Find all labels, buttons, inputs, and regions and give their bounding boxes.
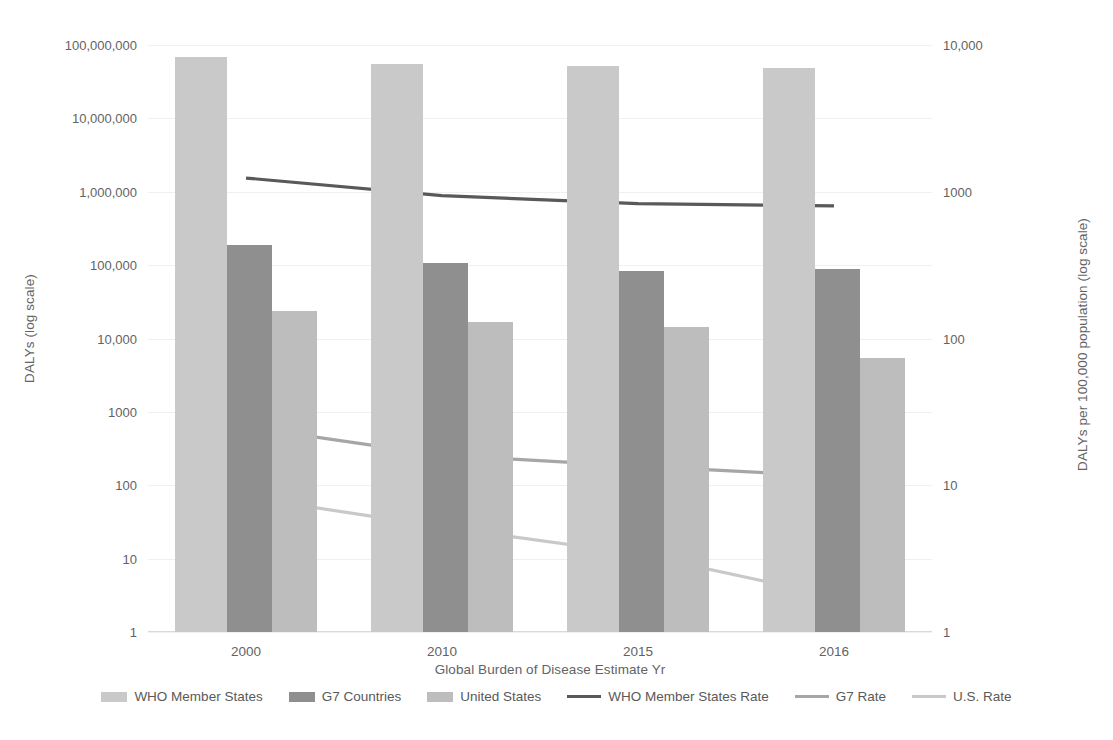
bar-g7-countries-2015 — [612, 271, 664, 632]
legend-swatch-icon — [427, 692, 453, 702]
y-axis-right-tick-label: 1 — [932, 626, 950, 639]
bar-united-states-2010 — [461, 322, 513, 632]
bar-g7-countries-2016 — [808, 269, 860, 632]
y-axis-right-tick-label: 1000 — [932, 185, 972, 198]
bar-who-member-states-2015 — [567, 66, 619, 632]
line-who-member-states-rate — [246, 178, 834, 206]
x-axis-tick-label: 2010 — [382, 644, 502, 659]
bar-who-member-states-2016 — [763, 68, 815, 632]
y-axis-right-tick-label: 10 — [932, 479, 957, 492]
legend-item-label: U.S. Rate — [953, 690, 1012, 704]
figure-caption — [18, 727, 1098, 740]
y-axis-left-tick-label: 1,000,000 — [79, 185, 148, 198]
bar-g7-countries-2010 — [416, 263, 468, 632]
y-axis-left-tick-label: 100,000,000 — [65, 39, 148, 52]
chart-legend: WHO Member StatesG7 CountriesUnited Stat… — [0, 690, 1113, 704]
y-axis-left-tick-label: 10,000 — [97, 332, 148, 345]
bar-united-states-2016 — [853, 358, 905, 632]
legend-item-united-states[interactable]: United States — [427, 690, 541, 704]
bar-g7-countries-2000 — [220, 245, 272, 632]
bar-united-states-2015 — [657, 327, 709, 632]
legend-item-label: WHO Member States Rate — [608, 690, 769, 704]
legend-item-label: G7 Countries — [322, 690, 402, 704]
y-axis-left-tick-label: 100 — [115, 479, 148, 492]
legend-item-label: G7 Rate — [836, 690, 886, 704]
y-axis-left-tick-label: 10,000,000 — [72, 112, 148, 125]
legend-item-label: WHO Member States — [134, 690, 262, 704]
y-axis-left-tick-label: 100,000 — [90, 259, 148, 272]
chart-figure: DALYs (log scale) DALYs per 100,000 popu… — [0, 0, 1113, 740]
y-axis-left-tick-label: 1000 — [108, 405, 148, 418]
legend-swatch-icon — [289, 692, 315, 702]
bar-united-states-2000 — [265, 311, 317, 632]
legend-item-u-s-rate[interactable]: U.S. Rate — [912, 690, 1012, 704]
y-axis-right-tick-label: 10,000 — [932, 39, 983, 52]
legend-item-g7-rate[interactable]: G7 Rate — [795, 690, 886, 704]
gridline — [148, 632, 932, 633]
legend-item-g7-countries[interactable]: G7 Countries — [289, 690, 402, 704]
legend-line-icon — [912, 695, 946, 698]
y-axis-left-title: DALYs (log scale) — [22, 214, 37, 444]
bar-who-member-states-2000 — [175, 57, 227, 632]
x-axis-tick-label: 2000 — [186, 644, 306, 659]
line-g7-rate — [246, 427, 834, 476]
legend-item-who-member-states-rate[interactable]: WHO Member States Rate — [567, 690, 769, 704]
line-u-s-rate — [246, 497, 834, 596]
plot-area: 110100100010,000100,0001,000,00010,000,0… — [148, 45, 932, 632]
bar-who-member-states-2010 — [371, 64, 423, 632]
legend-item-who-member-states[interactable]: WHO Member States — [101, 690, 262, 704]
legend-line-icon — [567, 695, 601, 698]
y-axis-left-tick-label: 1 — [130, 626, 148, 639]
y-axis-left-tick-label: 10 — [123, 552, 148, 565]
x-axis-tick-label: 2016 — [774, 644, 894, 659]
y-axis-right-tick-label: 100 — [932, 332, 965, 345]
legend-item-label: United States — [460, 690, 541, 704]
x-axis-title: Global Burden of Disease Estimate Yr — [170, 662, 930, 677]
legend-swatch-icon — [101, 692, 127, 702]
legend-line-icon — [795, 695, 829, 698]
x-axis-tick-label: 2015 — [578, 644, 698, 659]
y-axis-right-title: DALYs per 100,000 population (log scale) — [1075, 195, 1090, 495]
